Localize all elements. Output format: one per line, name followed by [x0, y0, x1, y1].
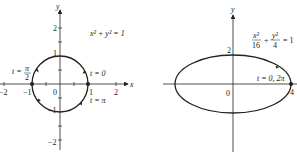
- eq-y-den: 4: [273, 41, 277, 50]
- left-y-tick-label: 2: [53, 24, 57, 33]
- right-y-tick-label: 2: [227, 46, 231, 55]
- point-t-zero-2pi: [289, 82, 293, 86]
- left-direction-arrows: [36, 69, 87, 105]
- point-t-pi-half: [30, 82, 34, 86]
- left-x-tick-label: −2: [0, 88, 8, 97]
- right-x-tick-label: 0: [226, 89, 230, 98]
- left-x-tick-label: 2: [114, 88, 118, 97]
- eq-y-num: y²: [271, 31, 279, 40]
- left-plot: y x −2 −1 0 1 2 2 1 −1 −2 x² + y² = 1 t …: [0, 2, 134, 150]
- left-x-tick-label: −1: [23, 88, 32, 97]
- right-plot: y 2 0 4 t = 0, 2π x² 16 + y² 4 = 1: [163, 5, 297, 152]
- annotation-t-pi-half-den: 2: [25, 73, 29, 82]
- eq-x-den: 16: [252, 41, 260, 50]
- diagram-canvas: y x −2 −1 0 1 2 2 1 −1 −2 x² + y² = 1 t …: [0, 0, 297, 153]
- left-x-axis-label: x: [129, 80, 134, 89]
- point-t-zero: [86, 82, 90, 86]
- annotation-t-pi: t = π: [90, 96, 107, 105]
- left-y-axis-label: y: [55, 2, 60, 11]
- eq-x-num: x²: [252, 31, 260, 40]
- right-y-axis-label: y: [230, 5, 235, 14]
- eq-rhs: = 1: [283, 36, 294, 45]
- right-equation: x² 16 + y² 4 = 1: [252, 31, 294, 50]
- annotation-t-pi-half-prefix: t =: [12, 67, 22, 76]
- left-y-tick-label: 1: [53, 49, 57, 58]
- left-equation: x² + y² = 1: [89, 29, 125, 38]
- eq-plus: +: [264, 36, 269, 45]
- annotation-t-pi-half-num: π: [25, 64, 30, 73]
- right-x-tick-label: 4: [290, 88, 294, 97]
- annotation-t-zero-2pi: t = 0, 2π: [257, 74, 286, 83]
- left-y-tick-label: −1: [48, 106, 57, 115]
- left-x-tick-label: 0: [53, 88, 57, 97]
- left-y-tick-label: −2: [48, 138, 57, 147]
- annotation-t-zero: t = 0: [90, 69, 106, 78]
